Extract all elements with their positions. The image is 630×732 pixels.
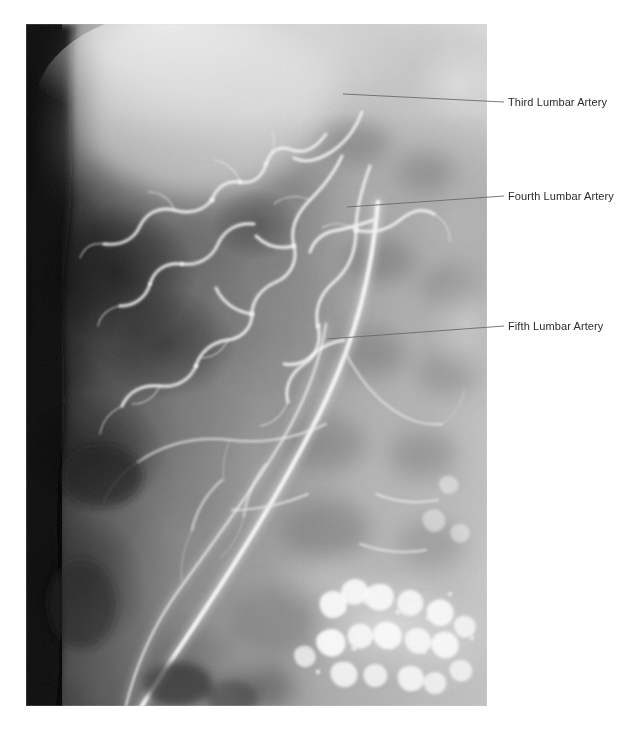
label-third-lumbar-artery: Third Lumbar Artery: [508, 96, 607, 108]
label-fourth-lumbar-artery: Fourth Lumbar Artery: [508, 190, 614, 202]
label-fifth-lumbar-artery: Fifth Lumbar Artery: [508, 320, 603, 332]
radiograph-image: [26, 24, 487, 706]
radiograph-canvas: [26, 24, 487, 706]
film-grain: [26, 24, 487, 706]
angiogram-figure: Third Lumbar Artery Fourth Lumbar Artery…: [0, 0, 630, 732]
